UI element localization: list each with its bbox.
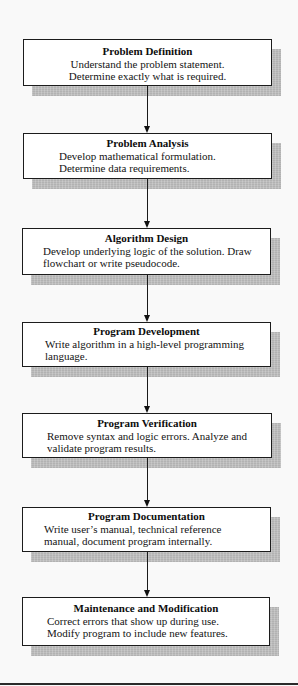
step-description: Write algorithm in a high-level programm… — [23, 339, 270, 362]
description-line: language. — [45, 351, 270, 363]
step-algorithm-design: Algorithm Design Develop underlying logi… — [22, 228, 271, 275]
step-description: Develop underlying logic of the solution… — [23, 246, 270, 269]
arrowhead-icon — [144, 126, 150, 133]
arrow-down-icon — [146, 179, 148, 228]
step-box: Algorithm Design Develop underlying logi… — [22, 228, 271, 275]
step-maintenance-and-modification: Maintenance and Modification Correct err… — [22, 597, 270, 646]
step-box: Program Verification Remove syntax and l… — [22, 413, 272, 458]
description-line: Determine data requirements. — [59, 163, 271, 175]
step-box: Program Development Write algorithm in a… — [22, 322, 271, 367]
step-title: Program Verification — [23, 417, 271, 429]
step-title: Program Documentation — [23, 510, 270, 522]
arrow-down-icon — [146, 367, 148, 413]
description-line: Write user’s manual, technical reference — [44, 524, 270, 536]
arrowhead-icon — [144, 406, 150, 413]
arrowhead-icon — [144, 500, 150, 507]
step-title: Maintenance and Modification — [23, 602, 269, 614]
arrow-shaft — [147, 86, 148, 127]
arrow-shaft — [147, 458, 148, 501]
description-line: Develop mathematical formulation. — [59, 151, 271, 163]
step-program-development: Program Development Write algorithm in a… — [22, 322, 271, 367]
step-description: Understand the problem statement. Determ… — [24, 59, 271, 82]
description-line: validate program results. — [47, 443, 271, 455]
description-line: Correct errors that show up during use. — [47, 616, 269, 628]
step-description: Develop mathematical formulation. Determ… — [24, 151, 271, 174]
step-program-verification: Program Verification Remove syntax and l… — [22, 413, 272, 458]
arrow-down-icon — [146, 552, 148, 597]
step-problem-analysis: Problem Analysis Develop mathematical fo… — [23, 133, 272, 179]
arrow-shaft — [147, 552, 148, 591]
step-title: Algorithm Design — [23, 232, 270, 244]
description-line: Develop underlying logic of the solution… — [43, 246, 270, 258]
step-title: Problem Analysis — [24, 137, 271, 149]
step-box: Program Documentation Write user’s manua… — [22, 507, 271, 552]
description-line: manual, document program internally. — [44, 536, 270, 548]
step-problem-definition: Problem Definition Understand the proble… — [23, 39, 272, 86]
step-title: Problem Definition — [24, 45, 271, 57]
bottom-divider — [0, 683, 298, 685]
arrowhead-icon — [144, 221, 150, 228]
step-description: Write user’s manual, technical reference… — [23, 524, 270, 547]
step-description: Correct errors that show up during use. … — [23, 616, 269, 639]
step-program-documentation: Program Documentation Write user’s manua… — [22, 507, 271, 552]
arrow-down-icon — [146, 86, 148, 133]
step-box: Problem Analysis Develop mathematical fo… — [23, 133, 272, 179]
step-description: Remove syntax and logic errors. Analyze … — [23, 431, 271, 454]
arrowhead-icon — [144, 315, 150, 322]
step-box: Problem Definition Understand the proble… — [23, 39, 272, 86]
step-title: Program Development — [23, 325, 270, 337]
arrow-shaft — [147, 275, 148, 316]
description-line: Write algorithm in a high-level programm… — [45, 339, 270, 351]
arrow-down-icon — [146, 275, 148, 322]
description-line: flowchart or write pseudocode. — [43, 258, 270, 270]
description-line: Modify program to include new features. — [47, 628, 269, 640]
arrow-shaft — [147, 367, 148, 407]
description-line: Remove syntax and logic errors. Analyze … — [47, 431, 271, 443]
flowchart-diagram: Problem Definition Understand the proble… — [0, 0, 298, 686]
arrow-down-icon — [146, 458, 148, 507]
description-line: Determine exactly what is required. — [24, 71, 271, 83]
step-box: Maintenance and Modification Correct err… — [22, 597, 270, 646]
arrow-shaft — [147, 179, 148, 222]
description-line: Understand the problem statement. — [24, 59, 271, 71]
arrowhead-icon — [144, 590, 150, 597]
